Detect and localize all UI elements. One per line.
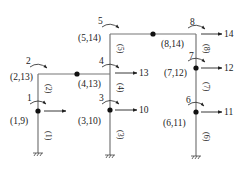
dof-14: 14 bbox=[224, 29, 234, 39]
dof-7: 7 bbox=[189, 51, 194, 61]
member-label-8: (8) bbox=[202, 44, 211, 54]
dof-8: 8 bbox=[190, 17, 195, 27]
translation-arrow-icons bbox=[44, 34, 222, 112]
joint-label-5: (5,14) bbox=[78, 33, 101, 44]
member-label-4: (4) bbox=[116, 83, 125, 93]
dof-1: 1 bbox=[27, 93, 32, 103]
member-label-5: (5) bbox=[116, 44, 125, 54]
member-label-7: (7) bbox=[202, 82, 211, 92]
joint-label-7: (7,12) bbox=[164, 68, 187, 79]
dof-5: 5 bbox=[98, 16, 103, 26]
member-labels: (1) (2) (3) (4) (5) (6) (7) (8) bbox=[44, 44, 211, 142]
joint-label-4: (4,13) bbox=[78, 79, 101, 90]
dof-10: 10 bbox=[139, 105, 149, 115]
joint-label-3: (3,10) bbox=[78, 116, 101, 127]
dof-2: 2 bbox=[26, 56, 31, 66]
fixed-support-icons bbox=[33, 153, 201, 159]
dof-11: 11 bbox=[224, 107, 233, 117]
dof-13: 13 bbox=[139, 68, 149, 78]
joint-labels: (1,9) (2,13) (3,10) (4,13) (5,14) (6,11)… bbox=[10, 33, 187, 129]
member-label-2: (2) bbox=[44, 84, 53, 94]
member-label-1: (1) bbox=[44, 131, 53, 141]
dof-4: 4 bbox=[99, 56, 104, 66]
rotation-arrow-icons bbox=[30, 24, 205, 106]
dof-6: 6 bbox=[186, 95, 191, 105]
joint-label-2: (2,13) bbox=[10, 72, 33, 83]
member-label-6: (6) bbox=[202, 132, 211, 142]
dof-12: 12 bbox=[224, 63, 234, 73]
member-label-3: (3) bbox=[116, 130, 125, 140]
frame-diagram: 1 2 3 4 5 6 7 8 10 13 11 12 14 (1,9) (2,… bbox=[0, 0, 244, 170]
joint-label-8: (8,14) bbox=[161, 39, 184, 50]
joint-label-1: (1,9) bbox=[10, 116, 28, 127]
joint-label-6: (6,11) bbox=[163, 118, 186, 129]
dof-3: 3 bbox=[99, 93, 104, 103]
